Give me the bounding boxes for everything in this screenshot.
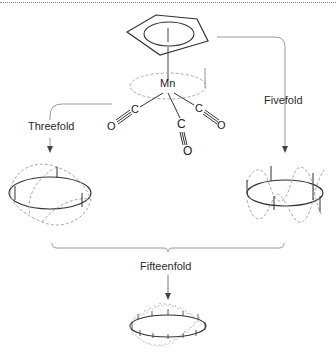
carbonyl-bonds (116, 93, 219, 145)
threefold-wave (9, 164, 91, 225)
carbon-left: C (131, 103, 139, 115)
threefold-arrow (50, 104, 112, 120)
fifteenfold-brace (52, 243, 284, 252)
fivefold-arrow (217, 37, 285, 148)
fivefold-label: Fivefold (264, 94, 303, 106)
diagram-canvas (0, 0, 336, 363)
metal-label: Mn (160, 77, 175, 89)
fifteenfold-label: Fifteenfold (140, 260, 191, 272)
cyclopentadienyl-ring (127, 15, 208, 80)
carbon-center: C (177, 117, 186, 131)
fivefold-wave (247, 166, 324, 222)
threefold-label: Threefold (28, 120, 74, 132)
oxygen-left: O (107, 120, 116, 132)
oxygen-center: O (183, 144, 192, 158)
carbon-right: C (195, 102, 203, 114)
oxygen-right: O (217, 119, 226, 131)
fifteenfold-wave (130, 303, 206, 347)
